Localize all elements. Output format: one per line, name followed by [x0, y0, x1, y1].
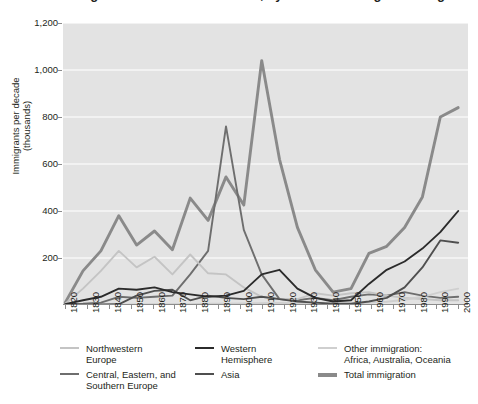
x-axis-tick-mark	[415, 305, 416, 309]
x-axis-tick-mark	[305, 305, 306, 309]
x-axis-tick-label: 1880	[200, 292, 210, 313]
series-line	[65, 61, 458, 303]
legend-label: Other immigration: Africa, Australia, Oc…	[344, 344, 451, 365]
x-axis-tick-mark	[371, 305, 372, 309]
x-axis-tick-mark	[458, 305, 459, 309]
legend-swatch-western_hemisphere	[195, 347, 214, 349]
x-axis-tick-label: 1900	[244, 292, 254, 313]
x-axis-tick-mark	[393, 305, 394, 309]
legend-column: Western HemisphereAsia	[195, 344, 272, 386]
legend-label: Central, Eastern, and Southern Europe	[86, 370, 176, 391]
y-axis-tick-mark	[58, 258, 62, 259]
y-axis-tick-label: 400	[6, 206, 58, 216]
y-axis-tick-mark	[58, 70, 62, 71]
chart-figure: 1,2001,000800600400200 Immigrants per de…	[0, 0, 478, 340]
x-axis-tick-label: 1830	[91, 292, 101, 313]
y-axis-label-line: (thousands)	[21, 51, 32, 201]
legend-swatch-northwestern_europe	[60, 347, 79, 349]
legend-item-total_immigration[interactable]: Total immigration	[318, 370, 451, 381]
x-axis-tick-mark	[436, 305, 437, 309]
legend-item-central_eastern_southern_europe[interactable]: Central, Eastern, and Southern Europe	[60, 370, 176, 391]
x-axis-tick-label: 1970	[397, 292, 407, 313]
legend-item-asia[interactable]: Asia	[195, 370, 272, 381]
x-axis-tick-label: 1920	[288, 292, 298, 313]
x-axis-tick-mark	[174, 305, 175, 309]
legend-item-other_immigration[interactable]: Other immigration: Africa, Australia, Oc…	[318, 344, 451, 365]
x-axis-tick-label: 1910	[266, 292, 276, 313]
y-axis-tick-mark	[58, 164, 62, 165]
x-axis-tick-label: 1850	[135, 292, 145, 313]
legend-item-western_hemisphere[interactable]: Western Hemisphere	[195, 344, 272, 365]
y-axis-label: Immigrants per decade(thousands)	[10, 51, 32, 201]
x-axis-tick-label: 2000	[462, 292, 472, 313]
legend-label: Total immigration	[344, 370, 451, 381]
x-axis-tick-label: 1840	[113, 292, 123, 313]
x-axis-tick-mark	[87, 305, 88, 309]
chart-legend: Northwestern EuropeCentral, Eastern, and…	[0, 344, 478, 402]
x-axis-tick-label: 1930	[309, 292, 319, 313]
legend-label: Western Hemisphere	[221, 344, 272, 365]
plot-series-layer	[63, 23, 468, 305]
legend-column: Northwestern EuropeCentral, Eastern, and…	[60, 344, 176, 396]
x-axis-tick-mark	[349, 305, 350, 309]
x-axis-tick-mark	[262, 305, 263, 309]
x-axis-tick-mark	[196, 305, 197, 309]
legend-column: Other immigration: Africa, Australia, Oc…	[318, 344, 451, 386]
y-axis-tick-mark	[58, 117, 62, 118]
legend-swatch-other_immigration	[318, 347, 337, 349]
y-axis-tick-label: 1,200	[6, 18, 58, 28]
x-axis-tick-label: 1990	[440, 292, 450, 313]
x-axis-tick-label: 1890	[222, 292, 232, 313]
x-axis-tick-label: 1950	[353, 292, 363, 313]
x-axis-tick-mark	[218, 305, 219, 309]
legend-swatch-total_immigration	[318, 373, 337, 377]
y-axis-tick-mark	[58, 211, 62, 212]
x-axis-tick-mark	[131, 305, 132, 309]
y-axis-tick-mark	[58, 23, 62, 24]
x-axis-tick-mark	[284, 305, 285, 309]
x-axis-tick-label: 1940	[331, 292, 341, 313]
x-axis-tick-mark	[109, 305, 110, 309]
x-axis-tick-label: 1820	[69, 292, 79, 313]
y-axis-label-line: Immigrants per decade	[10, 51, 21, 201]
x-axis-tick-label: 1980	[419, 292, 429, 313]
x-axis-tick-mark	[327, 305, 328, 309]
x-axis-tick-label: 1860	[157, 292, 167, 313]
legend-swatch-central_eastern_southern_europe	[60, 373, 79, 375]
x-axis-tick-mark	[240, 305, 241, 309]
series-line	[65, 126, 458, 304]
x-axis-tick-label: 1960	[375, 292, 385, 313]
legend-label: Asia	[221, 370, 272, 381]
legend-item-northwestern_europe[interactable]: Northwestern Europe	[60, 344, 176, 365]
x-axis-tick-mark	[65, 305, 66, 309]
legend-swatch-asia	[195, 373, 214, 375]
y-axis-tick-label: 200	[6, 253, 58, 263]
legend-label: Northwestern Europe	[86, 344, 176, 365]
x-axis-tick-mark	[153, 305, 154, 309]
x-axis-tick-label: 1870	[178, 292, 188, 313]
